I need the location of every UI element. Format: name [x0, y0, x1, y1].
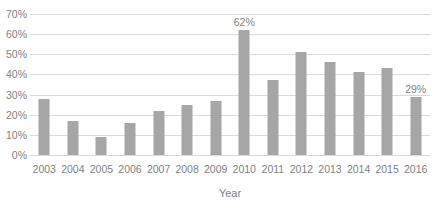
- bars-layer: 200320042005200620072008200962%201020112…: [30, 14, 430, 155]
- x-axis-tick-label: 2012: [290, 163, 313, 175]
- bar: [296, 52, 307, 155]
- bar-data-label: 62%: [234, 16, 255, 28]
- bar-group: 2007: [144, 14, 173, 155]
- y-axis-tick-label: 60%: [0, 28, 27, 40]
- x-axis-tick-label: 2011: [262, 163, 285, 175]
- bar: [353, 72, 364, 155]
- y-axis-tick-label: 40%: [0, 68, 27, 80]
- y-axis-tick-label: 10%: [0, 129, 27, 141]
- bar: [239, 30, 250, 155]
- y-axis-tick-label: 20%: [0, 109, 27, 121]
- x-axis-title: Year: [30, 187, 430, 199]
- y-axis-tick-label: 50%: [0, 48, 27, 60]
- x-axis-tick-label: 2010: [233, 163, 256, 175]
- gridline: [30, 155, 430, 156]
- bar: [324, 62, 335, 155]
- bar-group: 2003: [30, 14, 59, 155]
- bar-group: 2008: [173, 14, 202, 155]
- bar: [96, 137, 107, 155]
- bar: [153, 111, 164, 155]
- x-axis-tick-label: 2009: [204, 163, 227, 175]
- bar: [39, 99, 50, 155]
- x-axis-tick-label: 2015: [375, 163, 398, 175]
- x-axis-tick-label: 2013: [318, 163, 341, 175]
- bar-chart: 0%10%20%30%40%50%60%70% 2003200420052006…: [0, 0, 436, 210]
- x-axis-tick-label: 2004: [61, 163, 84, 175]
- bar-group: 2004: [59, 14, 88, 155]
- bar: [182, 105, 193, 155]
- bar-group: 2014: [344, 14, 373, 155]
- bar-group: 2015: [373, 14, 402, 155]
- bar: [124, 123, 135, 155]
- bar-data-label: 29%: [405, 83, 426, 95]
- bar: [67, 121, 78, 155]
- bar-group: 2006: [116, 14, 145, 155]
- x-axis-tick-label: 2003: [33, 163, 56, 175]
- x-axis-tick-label: 2014: [347, 163, 370, 175]
- bar: [410, 97, 421, 155]
- x-axis-tick-label: 2005: [90, 163, 113, 175]
- bar: [210, 101, 221, 155]
- x-axis-tick-label: 2008: [175, 163, 198, 175]
- bar-group: 2013: [316, 14, 345, 155]
- bar-group: 2005: [87, 14, 116, 155]
- x-axis-tick-label: 2006: [118, 163, 141, 175]
- bar-group: 2009: [201, 14, 230, 155]
- bar-group: 62%2010: [230, 14, 259, 155]
- bar-group: 29%2016: [401, 14, 430, 155]
- y-axis-tick-label: 0%: [0, 149, 27, 161]
- bar: [267, 80, 278, 155]
- plot-area: 200320042005200620072008200962%201020112…: [30, 14, 430, 155]
- bar: [382, 68, 393, 155]
- x-axis-tick-label: 2007: [147, 163, 170, 175]
- x-axis-tick-label: 2016: [404, 163, 427, 175]
- bar-group: 2011: [259, 14, 288, 155]
- y-axis-tick-label: 30%: [0, 89, 27, 101]
- bar-group: 2012: [287, 14, 316, 155]
- y-axis-tick-label: 70%: [0, 8, 27, 20]
